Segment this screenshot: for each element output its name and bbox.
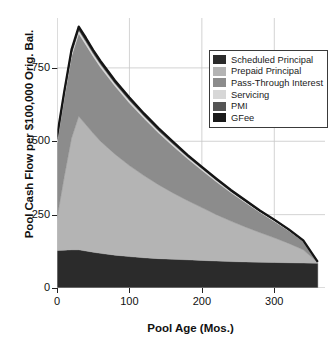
- legend-swatch-icon: [213, 102, 226, 111]
- legend-swatch-icon: [213, 78, 226, 87]
- x-tick-label: 200: [182, 295, 222, 307]
- legend-label: PMI: [231, 101, 248, 111]
- x-tick-label: 300: [254, 295, 294, 307]
- legend-item: Pass-Through Interest: [213, 77, 323, 89]
- legend-swatch-icon: [213, 67, 226, 76]
- x-tick-label: 100: [109, 295, 149, 307]
- legend-item: Servicing: [213, 89, 323, 101]
- y-tick-label: 0: [16, 281, 50, 293]
- legend-item: Prepaid Principal: [213, 66, 323, 78]
- x-tick-mark: [274, 288, 275, 293]
- x-axis-title: Pool Age (Mos.): [101, 322, 233, 334]
- x-axis-title-wrap: Pool Age (Mos.): [0, 322, 335, 334]
- legend-swatch-icon: [213, 113, 226, 122]
- legend-label: Pass-Through Interest: [231, 78, 323, 88]
- y-tick-label: 250: [16, 208, 50, 220]
- legend-label: Servicing: [231, 90, 269, 100]
- x-tick-mark: [129, 288, 130, 293]
- legend-label: Prepaid Principal: [231, 66, 301, 76]
- y-axis-ticks: 0250500750: [14, 18, 50, 288]
- legend-swatch-icon: [213, 55, 226, 64]
- chart-legend: Scheduled PrincipalPrepaid PrincipalPass…: [209, 50, 328, 128]
- legend-item: PMI: [213, 100, 323, 112]
- legend-item: GFee: [213, 112, 323, 124]
- stacked-area-chart: Pool Cash Flow per $100,000 Orig. Bal. 0…: [0, 0, 335, 344]
- legend-item: Scheduled Principal: [213, 54, 323, 66]
- x-tick-mark: [57, 288, 58, 293]
- x-tick-label: 0: [37, 295, 77, 307]
- legend-swatch-icon: [213, 90, 226, 99]
- x-tick-mark: [202, 288, 203, 293]
- legend-label: Scheduled Principal: [231, 55, 313, 65]
- y-tick-label: 500: [16, 134, 50, 146]
- legend-label: GFee: [231, 113, 254, 123]
- x-axis-ticks: 0100200300: [57, 288, 325, 314]
- y-tick-label: 750: [16, 61, 50, 73]
